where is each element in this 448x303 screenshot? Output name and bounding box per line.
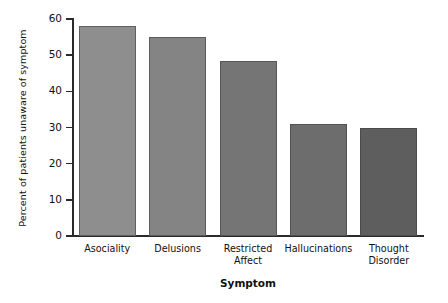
category-label-line: Affect [200, 255, 296, 267]
y-tick-label-60: 60 [22, 13, 62, 24]
y-tick-label-0: 0 [22, 230, 62, 241]
y-tick-label-50: 50 [22, 49, 62, 60]
y-tick-label-10: 10 [22, 194, 62, 205]
plot-area [72, 19, 424, 236]
bar-hallucinations [290, 124, 347, 236]
bar-thought-disorder [360, 128, 417, 237]
y-tick-label-20: 20 [22, 158, 62, 169]
bar-delusions [149, 37, 206, 236]
x-axis-title: Symptom [72, 277, 424, 289]
category-label-thought-disorder: ThoughtDisorder [341, 243, 437, 266]
bar-restricted-affect [220, 61, 277, 236]
bar-asociality [79, 26, 136, 236]
y-tick-label-40: 40 [22, 85, 62, 96]
y-tick-label-30: 30 [22, 122, 62, 133]
category-label-line: Thought [341, 243, 437, 255]
bar-chart: Percent of patients unaware of symptom 0… [0, 0, 448, 303]
category-label-line: Disorder [341, 255, 437, 267]
